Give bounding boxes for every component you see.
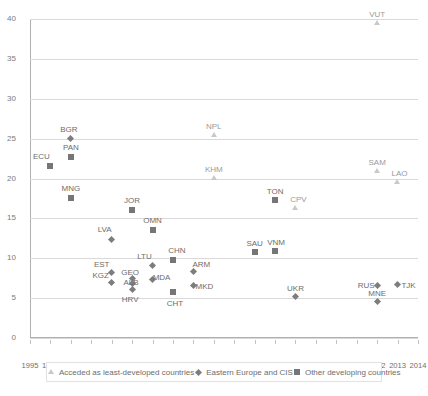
legend-item-1[interactable]: Eastern Europe and CIS bbox=[194, 368, 293, 377]
square-marker-icon bbox=[252, 249, 258, 255]
data-point-label: LAO bbox=[380, 170, 420, 178]
x-axis-tick bbox=[398, 340, 399, 344]
x-axis-tick bbox=[132, 340, 133, 344]
data-point-label: MDA bbox=[142, 274, 182, 282]
diamond-marker-icon bbox=[149, 262, 156, 269]
gridline bbox=[30, 139, 418, 140]
x-axis-tick bbox=[336, 340, 337, 344]
data-point-label: ECU bbox=[21, 153, 61, 161]
x-axis-tick bbox=[275, 340, 276, 344]
data-point-label: PAN bbox=[51, 144, 91, 152]
x-axis-tick bbox=[71, 340, 72, 344]
gridline bbox=[30, 258, 418, 259]
data-point-label: HRV bbox=[110, 296, 150, 304]
x-axis-tick-label: 2014 bbox=[401, 361, 428, 370]
legend-label: Other developing countries bbox=[305, 368, 401, 377]
gridline bbox=[30, 218, 418, 219]
data-point-label: VUT bbox=[357, 11, 397, 19]
diamond-marker-icon bbox=[190, 268, 197, 275]
diamond-marker-icon bbox=[108, 236, 115, 243]
y-axis-tick-label: 25 bbox=[0, 135, 16, 143]
diamond-marker-icon bbox=[129, 286, 136, 293]
triangle-marker-icon bbox=[211, 175, 217, 180]
data-point-label: CHN bbox=[157, 247, 197, 255]
data-point-label: JOR bbox=[112, 197, 152, 205]
scatter-chart: 0510152025303540199519961997199819992000… bbox=[0, 0, 428, 396]
gridline bbox=[30, 99, 418, 100]
triangle-icon bbox=[47, 368, 55, 376]
diamond-icon bbox=[194, 368, 202, 376]
x-axis-tick bbox=[377, 340, 378, 344]
data-point-label: VNM bbox=[256, 239, 296, 247]
data-point-label: NPL bbox=[194, 123, 234, 131]
y-axis-tick-label: 20 bbox=[0, 175, 16, 183]
square-marker-icon bbox=[68, 154, 74, 160]
chart-legend: Acceded as least-developed countriesEast… bbox=[46, 362, 382, 382]
gridline bbox=[30, 179, 418, 180]
x-axis-tick bbox=[316, 340, 317, 344]
y-axis-tick-label: 35 bbox=[0, 55, 16, 63]
x-axis-tick bbox=[173, 340, 174, 344]
data-point-label: MKD bbox=[184, 283, 224, 291]
x-axis-tick bbox=[30, 340, 31, 344]
square-icon bbox=[293, 368, 301, 376]
triangle-marker-icon bbox=[292, 205, 298, 210]
square-marker-icon bbox=[129, 207, 135, 213]
data-point-label: KHM bbox=[194, 166, 234, 174]
x-axis-tick bbox=[214, 340, 215, 344]
data-point-label: SAM bbox=[357, 159, 397, 167]
square-marker-icon bbox=[150, 227, 156, 233]
y-axis-tick-label: 10 bbox=[0, 254, 16, 262]
y-axis-tick-label: 30 bbox=[0, 95, 16, 103]
triangle-marker-icon bbox=[394, 179, 400, 184]
square-marker-icon bbox=[272, 248, 278, 254]
y-axis-tick-label: 0 bbox=[0, 334, 16, 342]
data-point-label: CPV bbox=[278, 196, 318, 204]
gridline bbox=[30, 338, 418, 339]
diamond-marker-icon bbox=[67, 135, 74, 142]
data-point-label: TJK bbox=[389, 282, 428, 290]
data-point-label: CHT bbox=[155, 300, 195, 308]
data-point-label: TON bbox=[255, 188, 295, 196]
x-axis-tick bbox=[234, 340, 235, 344]
square-marker-icon bbox=[68, 195, 74, 201]
plot-area: 0510152025303540199519961997199819992000… bbox=[30, 19, 418, 338]
x-axis-tick bbox=[418, 340, 419, 344]
data-point-label: UKR bbox=[275, 285, 315, 293]
data-point-label: ARM bbox=[181, 261, 221, 269]
data-point-label: MNE bbox=[357, 290, 397, 298]
square-marker-icon bbox=[170, 257, 176, 263]
y-axis-tick-label: 15 bbox=[0, 214, 16, 222]
square-marker-icon bbox=[170, 289, 176, 295]
x-axis-tick bbox=[357, 340, 358, 344]
x-axis-tick bbox=[295, 340, 296, 344]
square-marker-icon bbox=[47, 163, 53, 169]
x-axis-tick bbox=[255, 340, 256, 344]
legend-item-2[interactable]: Other developing countries bbox=[293, 368, 401, 377]
gridline bbox=[30, 59, 418, 60]
legend-label: Acceded as least-developed countries bbox=[59, 368, 194, 377]
y-axis-tick-label: 5 bbox=[0, 294, 16, 302]
data-point-label: MNG bbox=[51, 185, 91, 193]
x-axis-tick bbox=[50, 340, 51, 344]
legend-label: Eastern Europe and CIS bbox=[206, 368, 293, 377]
square-marker-icon bbox=[272, 197, 278, 203]
legend-item-0[interactable]: Acceded as least-developed countries bbox=[47, 368, 194, 377]
data-point-label: EST bbox=[82, 261, 122, 269]
x-axis-tick bbox=[91, 340, 92, 344]
triangle-marker-icon bbox=[374, 20, 380, 25]
data-point-label: OMN bbox=[133, 217, 173, 225]
data-point-label: BGR bbox=[49, 126, 89, 134]
data-point-label: LVA bbox=[85, 226, 125, 234]
y-axis-tick-label: 40 bbox=[0, 15, 16, 23]
triangle-marker-icon bbox=[211, 132, 217, 137]
x-axis-tick bbox=[193, 340, 194, 344]
x-axis-tick bbox=[112, 340, 113, 344]
x-axis-tick bbox=[153, 340, 154, 344]
gridline bbox=[30, 19, 418, 20]
